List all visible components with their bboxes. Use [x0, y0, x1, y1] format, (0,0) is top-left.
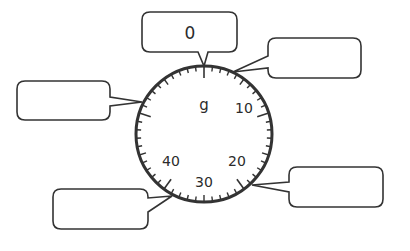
dial-number-30: 30 [195, 174, 213, 190]
callout-right[interactable] [252, 167, 383, 207]
callout-top[interactable]: 0 [142, 12, 237, 66]
dial-number-40: 40 [162, 153, 180, 169]
callout-top-right[interactable] [233, 38, 361, 78]
dial-number-10: 10 [235, 100, 253, 116]
unit-label: g [199, 96, 209, 114]
dial-number-20: 20 [228, 153, 246, 169]
callout-left[interactable] [17, 81, 142, 120]
callout-top-value: 0 [185, 23, 196, 43]
scale-dial-diagram: g 10 20 30 40 0 [0, 0, 410, 251]
callout-bottom-left[interactable] [53, 189, 172, 229]
